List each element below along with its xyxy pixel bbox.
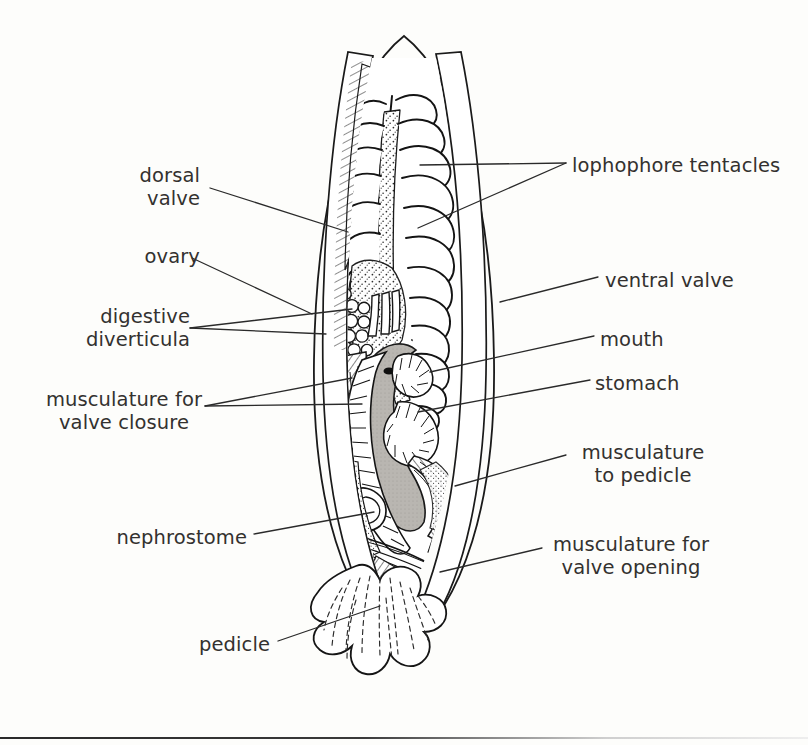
label-dorsal-valve: dorsal valve <box>140 164 200 210</box>
label-ovary: ovary <box>145 245 200 268</box>
label-nephrostome: nephrostome <box>117 526 247 549</box>
leader-ventral-valve <box>500 277 598 302</box>
label-musculature-to-pedicle: musculature to pedicle <box>569 441 717 487</box>
diverticula-ducts <box>368 290 400 336</box>
label-lophophore-tentacles: lophophore tentacles <box>572 154 780 177</box>
label-stomach: stomach <box>595 372 679 395</box>
pedicle <box>311 565 446 674</box>
leader-digestive-a <box>190 328 326 334</box>
label-pedicle: pedicle <box>199 633 270 656</box>
label-mouth: mouth <box>600 328 664 351</box>
label-musculature-valve-opening: musculature for valve opening <box>545 533 717 579</box>
label-ventral-valve: ventral valve <box>605 269 734 292</box>
leader-ovary <box>192 258 312 314</box>
bottom-rule <box>0 737 808 739</box>
brachiopod-anatomy-figure <box>0 0 808 745</box>
label-musculature-valve-closure: musculature for valve closure <box>40 388 208 434</box>
label-digestive-diverticula: digestive diverticula <box>86 305 190 351</box>
